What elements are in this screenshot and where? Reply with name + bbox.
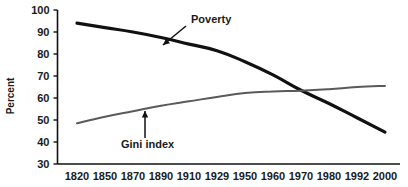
y-axis-title-group: Percent	[5, 77, 16, 114]
y-axis-tick-label: 100	[31, 4, 49, 16]
y-axis-title: Percent	[5, 77, 16, 114]
x-axis-tick-label: 1929	[205, 170, 229, 182]
x-axis-tick-label: 2000	[373, 170, 397, 182]
x-axis-tick-label: 1960	[261, 170, 285, 182]
y-axis-tick-label: 60	[37, 92, 49, 104]
annotation-label: Poverty	[191, 13, 232, 25]
x-axis-tick-label: 1870	[121, 170, 145, 182]
y-axis-tick-label: 70	[37, 70, 49, 82]
y-axis-tick-label: 80	[37, 48, 49, 60]
x-axis-tick-label: 1850	[93, 170, 117, 182]
chart-container: 30405060708090100 1820185018701890191019…	[0, 0, 408, 187]
x-axis-tick-label: 1890	[149, 170, 173, 182]
y-axis-tick-label: 50	[37, 114, 49, 126]
y-axis-tick-label: 30	[37, 158, 49, 170]
y-axis-tick-label: 40	[37, 136, 49, 148]
line-chart: 30405060708090100 1820185018701890191019…	[0, 0, 408, 187]
x-axis-tick-label: 1970	[289, 170, 313, 182]
x-axis-tick-label: 1992	[345, 170, 369, 182]
annotation-label: Gini index	[121, 138, 175, 150]
x-axis-tick-label: 1980	[317, 170, 341, 182]
x-axis-tick-label: 1820	[65, 170, 89, 182]
x-axis-tick-label: 1950	[233, 170, 257, 182]
plot-background	[0, 0, 408, 187]
x-axis-tick-label: 1910	[177, 170, 201, 182]
y-axis-tick-label: 90	[37, 26, 49, 38]
